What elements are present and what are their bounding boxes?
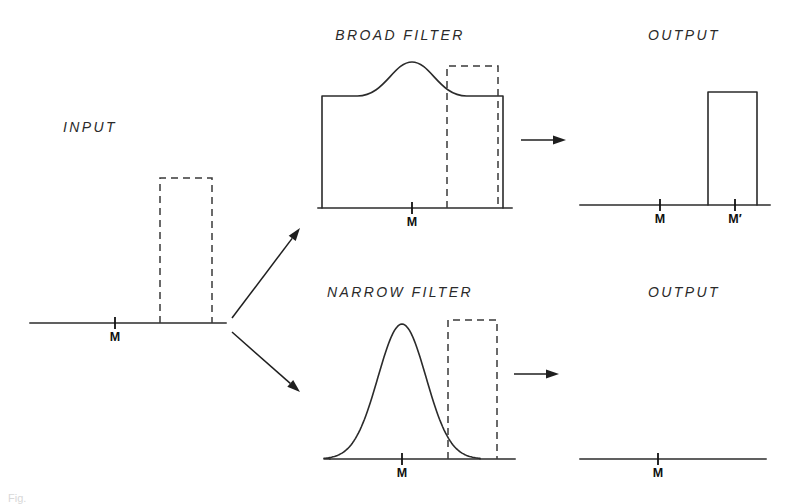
broad-filter-tick-label-m: M — [407, 215, 417, 229]
flow-arrow-group — [232, 136, 566, 392]
broad-filter-title: BROAD FILTER — [335, 27, 465, 43]
narrow-filter-overlaid-pulse — [448, 320, 497, 459]
panel-output-bottom: OUTPUT M — [580, 284, 766, 480]
figure-canvas: INPUT M BROAD FILTER M NARROW FILTER M — [0, 0, 790, 504]
output-bottom-tick-label-m: M — [653, 466, 663, 480]
panel-input: INPUT M — [30, 119, 226, 344]
output-top-tick-label-m-prime: M′ — [728, 212, 741, 226]
output-bottom-title: OUTPUT — [648, 284, 720, 300]
filter-response-figure: INPUT M BROAD FILTER M NARROW FILTER M — [0, 0, 790, 504]
output-top-tick-label-m: M — [655, 212, 665, 226]
input-panel-title: INPUT — [63, 119, 117, 135]
narrow-filter-tick-label-m: M — [397, 466, 407, 480]
broad-filter-overlaid-pulse — [447, 66, 498, 208]
panel-narrow-filter: NARROW FILTER M — [324, 284, 515, 480]
broad-filter-response-curve — [322, 62, 503, 208]
panel-broad-filter: BROAD FILTER M — [318, 27, 512, 229]
broad-to-output-head — [553, 136, 566, 145]
input-tick-label-m: M — [110, 330, 120, 344]
input-signal-pulse — [160, 178, 212, 323]
figure-caption: Fig. — [8, 492, 26, 504]
input-to-broad-shaft — [232, 238, 292, 318]
input-to-narrow-shaft — [232, 332, 290, 383]
output-top-title: OUTPUT — [648, 27, 720, 43]
narrow-to-output-head — [546, 370, 559, 379]
output-top-signal-pulse — [708, 92, 757, 205]
narrow-filter-response-curve — [324, 324, 480, 459]
input-to-broad-head — [289, 228, 300, 241]
narrow-filter-title: NARROW FILTER — [327, 284, 473, 300]
panel-output-top: OUTPUT M M′ — [580, 27, 770, 226]
